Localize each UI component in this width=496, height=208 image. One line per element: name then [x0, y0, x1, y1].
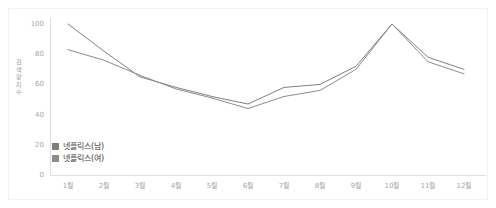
x-tick-label: 9월 — [336, 180, 376, 190]
legend-swatch-icon — [52, 155, 59, 162]
x-tick-label: 3월 — [120, 180, 160, 190]
x-tick-label: 12월 — [444, 180, 484, 190]
line-series-1 — [68, 24, 464, 104]
y-tick-label: 0 — [10, 171, 44, 179]
y-tick-label: 60 — [10, 80, 44, 88]
legend-item[interactable]: 넷플릭스(여) — [52, 153, 104, 163]
y-tick-label: 20 — [10, 141, 44, 149]
y-tick-label: 80 — [10, 50, 44, 58]
x-tick-label: 1월 — [48, 180, 88, 190]
x-tick-label: 5월 — [192, 180, 232, 190]
x-tick-label: 4월 — [156, 180, 196, 190]
plot-area — [50, 20, 486, 180]
x-tick-label: 2월 — [84, 180, 124, 190]
x-axis-tick-labels: 1월2월3월4월5월6월7월8월9월10월11월12월 — [0, 180, 496, 200]
legend-swatch-icon — [52, 143, 59, 150]
x-tick-label: 8월 — [300, 180, 340, 190]
y-axis-tick-labels: 020406080100 — [10, 0, 44, 208]
x-tick-label: 11월 — [408, 180, 448, 190]
chart-legend: 넷플릭스(남)넷플릭스(여) — [52, 141, 104, 163]
legend-label: 넷플릭스(여) — [63, 154, 104, 163]
legend-label: 넷플릭스(남) — [63, 142, 104, 151]
x-tick-label: 10월 — [372, 180, 412, 190]
legend-item[interactable]: 넷플릭스(남) — [52, 141, 104, 151]
x-tick-label: 6월 — [228, 180, 268, 190]
y-tick-label: 100 — [10, 20, 44, 28]
y-tick-label: 40 — [10, 111, 44, 119]
chart-figure: 검 색 량 지 수 020406080100 1월2월3월4월5월6월7월8월9… — [0, 0, 496, 208]
x-tick-label: 7월 — [264, 180, 304, 190]
line-series-group — [50, 20, 486, 180]
